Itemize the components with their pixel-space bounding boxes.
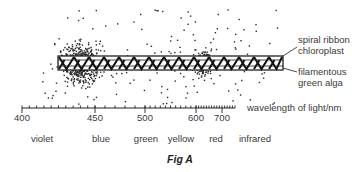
- tick-label-700: 700: [214, 112, 230, 123]
- chloroplast-leader-line: [283, 47, 297, 56]
- band-label-green: green: [134, 133, 158, 144]
- band-label-yellow: yellow: [168, 133, 194, 144]
- tick-label-600: 600: [188, 112, 204, 123]
- band-label-red: red: [209, 133, 223, 144]
- tick-label-450: 450: [87, 112, 103, 123]
- tick-label-500: 500: [137, 112, 153, 123]
- chloroplast-label-line1: spiral ribbon: [298, 35, 350, 45]
- figure-a: spiral ribbon chloroplast filamentous gr…: [0, 0, 359, 172]
- filamentous-green-alga: [58, 56, 283, 70]
- chloroplast-label-line2: chloroplast: [298, 46, 344, 56]
- tick-label-400: 400: [14, 112, 30, 123]
- band-label-infrared: infrared: [239, 133, 271, 144]
- figure-caption: Fig A: [167, 153, 193, 165]
- band-label-violet: violet: [31, 133, 53, 144]
- alga-label-line1: filamentous: [298, 67, 347, 77]
- alga-label-line2: green alga: [298, 78, 343, 88]
- axis-label: wavelength of light/nm: [247, 103, 342, 113]
- band-label-blue: blue: [92, 133, 110, 144]
- alga-leader-line: [283, 68, 297, 72]
